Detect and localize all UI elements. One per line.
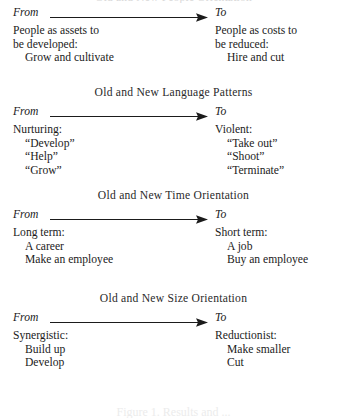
- comparison-block: Old and New Time OrientationFromToLong t…: [0, 189, 347, 226]
- column-lead-line: People as costs to: [215, 24, 297, 38]
- column-lead-line: People as assets to: [13, 24, 114, 38]
- column-item: Develop: [13, 356, 68, 370]
- from-label: From: [13, 6, 38, 19]
- column-item: “Terminate”: [215, 164, 284, 178]
- column-item: “Help”: [13, 150, 75, 164]
- block-heading: Old and New Language Patterns: [0, 86, 347, 99]
- figure-caption: Figure 1. Results and ...: [0, 405, 347, 418]
- column-item: “Develop”: [13, 137, 75, 151]
- from-label: From: [13, 105, 38, 118]
- column-lead-line: Reductionist:: [215, 329, 290, 343]
- from-column: People as assets tobe developed:Grow and…: [13, 24, 114, 65]
- column-item: Hire and cut: [215, 51, 297, 65]
- right-arrow-icon: [50, 13, 208, 22]
- column-item: Make smaller: [215, 343, 290, 357]
- comparison-block: Old and New Language PatternsFromToNurtu…: [0, 86, 347, 123]
- column-item: A job: [215, 240, 308, 254]
- clipped-top-heading: Old and New People Orientation: [0, 0, 347, 3]
- column-item: “Grow”: [13, 164, 75, 178]
- column-item: Build up: [13, 343, 68, 357]
- column-lead-line: be reduced:: [215, 38, 297, 52]
- from-column: Synergistic:Build upDevelop: [13, 329, 68, 370]
- comparison-block: Old and New Size OrientationFromToSynerg…: [0, 292, 347, 329]
- column-item: Make an employee: [13, 253, 113, 267]
- column-item: Cut: [215, 356, 290, 370]
- column-item: Grow and cultivate: [13, 51, 114, 65]
- to-label: To: [215, 105, 226, 118]
- column-lead-line: Long term:: [13, 226, 113, 240]
- to-label: To: [215, 6, 226, 19]
- block-heading: Old and New Size Orientation: [0, 292, 347, 305]
- column-lead-line: Violent:: [215, 123, 284, 137]
- to-column: People as costs tobe reduced:Hire and cu…: [215, 24, 297, 65]
- column-lead-line: Nurturing:: [13, 123, 75, 137]
- column-item: “Shoot”: [215, 150, 284, 164]
- comparison-block: FromToPeople as assets tobe developed:Gr…: [0, 6, 347, 24]
- right-arrow-icon: [50, 112, 208, 121]
- from-to-arrow-row: FromTo: [0, 311, 347, 327]
- from-to-arrow-row: FromTo: [0, 6, 347, 22]
- block-heading: Old and New Time Orientation: [0, 189, 347, 202]
- to-column: Short term:A jobBuy an employee: [215, 226, 308, 267]
- right-arrow-icon: [50, 318, 208, 327]
- column-item: Buy an employee: [215, 253, 308, 267]
- column-item: A career: [13, 240, 113, 254]
- from-to-arrow-row: FromTo: [0, 208, 347, 224]
- to-label: To: [215, 208, 226, 221]
- from-column: Nurturing:“Develop”“Help”“Grow”: [13, 123, 75, 177]
- column-lead-line: Synergistic:: [13, 329, 68, 343]
- from-to-arrow-row: FromTo: [0, 105, 347, 121]
- column-lead-line: be developed:: [13, 38, 114, 52]
- column-item: “Take out”: [215, 137, 284, 151]
- right-arrow-icon: [50, 215, 208, 224]
- from-label: From: [13, 311, 38, 324]
- to-column: Reductionist:Make smallerCut: [215, 329, 290, 370]
- to-column: Violent:“Take out”“Shoot”“Terminate”: [215, 123, 284, 177]
- from-label: From: [13, 208, 38, 221]
- from-column: Long term:A careerMake an employee: [13, 226, 113, 267]
- to-label: To: [215, 311, 226, 324]
- column-lead-line: Short term:: [215, 226, 308, 240]
